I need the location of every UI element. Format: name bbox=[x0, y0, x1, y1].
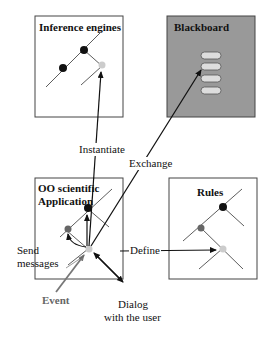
send-messages-label-line2: messages bbox=[17, 257, 59, 270]
node-light bbox=[220, 246, 227, 253]
dialog-label-line2: with the user bbox=[104, 311, 161, 324]
event-label: Event bbox=[42, 294, 70, 307]
node-dark bbox=[80, 46, 88, 54]
oo-application-title-line2: Application bbox=[38, 195, 93, 208]
node-dark bbox=[59, 64, 67, 72]
exchange-label: Exchange bbox=[129, 157, 172, 170]
node-light bbox=[86, 246, 93, 253]
node-gray bbox=[198, 225, 205, 232]
node-light bbox=[99, 62, 106, 69]
node-dark bbox=[219, 203, 227, 211]
instantiate-label: Instantiate bbox=[79, 143, 125, 156]
blackboard-title: Blackboard bbox=[174, 21, 229, 34]
send-messages-label-line1: Send bbox=[17, 244, 39, 257]
rules-title: Rules bbox=[197, 186, 223, 199]
node-gray bbox=[65, 226, 72, 233]
inference-engines-title: Inference engines bbox=[39, 21, 121, 34]
define-label: Define bbox=[129, 244, 161, 257]
oo-application-title-line1: OO scientific bbox=[38, 182, 99, 195]
dialog-label-line1: Dialog bbox=[118, 298, 148, 311]
